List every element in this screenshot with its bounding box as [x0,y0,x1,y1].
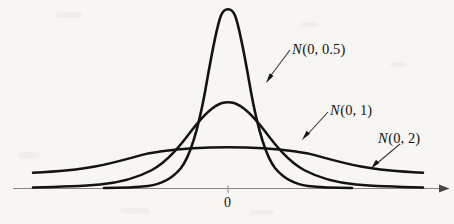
series-label-n-0-1-symbol: N [330,102,340,118]
series-label-n-0-1: N(0, 1) [330,103,372,118]
leader-line-n-0-1 [306,112,328,136]
leader-line-n-0-2 [375,144,400,165]
plot-canvas [0,0,454,224]
curve-n-0-0-5 [104,9,352,188]
series-label-n-0-0-5-symbol: N [292,41,302,57]
axis-arrow-right-icon [439,185,450,193]
curve-n-0-2 [33,147,423,173]
leader-line-n-0-0-5 [269,50,290,78]
x-axis-zero-label: 0 [224,196,231,210]
leader-arrowhead-n-0-2 [371,160,379,169]
series-label-n-0-2-args: (0, 2) [388,130,420,146]
series-label-n-0-0-5: N(0, 0.5) [292,42,345,57]
series-label-n-0-1-args: (0, 1) [340,102,372,118]
series-label-n-0-2: N(0, 2) [378,131,420,146]
series-label-n-0-2-symbol: N [378,130,388,146]
series-label-n-0-0-5-args: (0, 0.5) [302,41,345,57]
normal-distributions-figure: N(0, 0.5) N(0, 1) N(0, 2) 0 [0,0,454,224]
leader-arrowhead-n-0-0-5 [266,73,273,83]
